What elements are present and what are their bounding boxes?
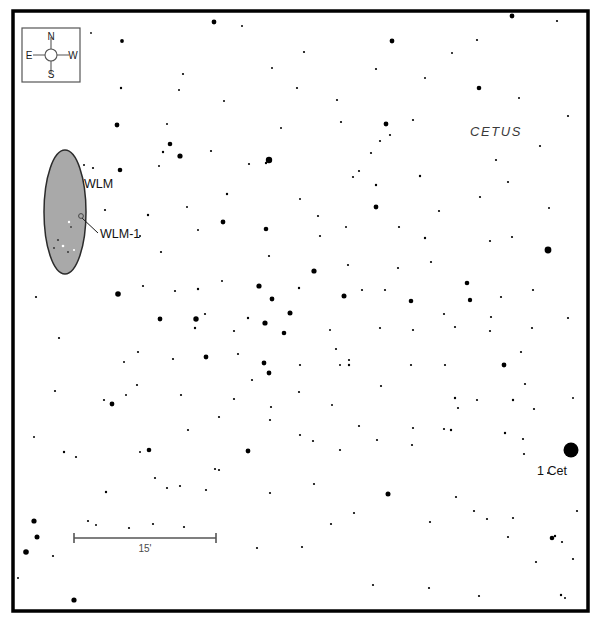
star [123, 361, 125, 363]
star [58, 337, 60, 339]
star [221, 280, 223, 282]
star [336, 99, 338, 101]
star [564, 597, 566, 599]
star [241, 25, 243, 27]
star [31, 518, 36, 523]
star [523, 453, 525, 455]
star [339, 449, 341, 451]
star [524, 383, 526, 385]
star [256, 547, 258, 549]
star [312, 440, 314, 442]
star [120, 87, 122, 89]
galaxy-inner-star [73, 249, 75, 251]
star [251, 379, 253, 381]
star [419, 175, 421, 177]
star [386, 492, 391, 497]
star [167, 610, 169, 612]
star [162, 151, 164, 153]
star [561, 541, 563, 543]
galaxy-inner-star [70, 226, 72, 228]
star [298, 287, 300, 289]
star [125, 394, 127, 396]
star [438, 210, 440, 212]
star [372, 584, 374, 586]
star [187, 429, 189, 431]
star [83, 164, 85, 166]
named-star-label: 1 Cet [537, 464, 567, 478]
star [105, 491, 107, 493]
star [576, 510, 578, 512]
star [221, 220, 226, 225]
star [398, 226, 400, 228]
star [457, 407, 459, 409]
star [412, 427, 414, 429]
star [110, 402, 115, 407]
star [455, 496, 457, 498]
star [430, 261, 432, 263]
sky-field: WLM WLM-1 CETUS 1 Cet 15' N S E W [0, 0, 601, 627]
star [539, 145, 541, 147]
star [54, 390, 56, 392]
star [424, 237, 426, 239]
star [160, 251, 162, 253]
star [90, 32, 92, 34]
star [479, 196, 481, 198]
galaxy-inner-star [68, 221, 70, 223]
star [212, 20, 217, 25]
star [267, 371, 272, 376]
star [465, 281, 470, 286]
star [269, 419, 271, 421]
star [298, 391, 300, 393]
star [296, 87, 298, 89]
star [345, 226, 347, 228]
star [237, 353, 239, 355]
star [340, 121, 342, 123]
compass-north-label: N [47, 31, 54, 42]
star [205, 489, 207, 491]
star [71, 597, 76, 602]
star [379, 140, 381, 142]
star [269, 492, 271, 494]
star [120, 39, 124, 43]
star [468, 298, 472, 302]
star [139, 451, 141, 453]
star [507, 181, 509, 183]
star-chart: WLM WLM-1 CETUS 1 Cet 15' N S E W [0, 0, 601, 627]
star [158, 317, 163, 322]
star [303, 51, 305, 53]
star [268, 255, 270, 257]
star [311, 268, 316, 273]
star [142, 285, 144, 287]
star [247, 317, 249, 319]
star [444, 364, 446, 366]
star [262, 320, 267, 325]
star [319, 235, 321, 237]
star [572, 397, 574, 399]
star [443, 313, 445, 315]
star [451, 52, 453, 54]
star [358, 170, 360, 172]
compass-rose: N S E W [22, 28, 80, 82]
star [409, 299, 414, 304]
star [204, 313, 206, 315]
star [348, 364, 350, 366]
star [33, 436, 35, 438]
star [531, 327, 533, 329]
star [560, 594, 562, 596]
star [299, 434, 301, 436]
star [512, 399, 514, 401]
star [374, 205, 379, 210]
star [166, 123, 168, 125]
star [218, 469, 220, 471]
star [490, 316, 492, 318]
star [567, 317, 569, 319]
star [329, 329, 331, 331]
star [172, 358, 174, 360]
star [450, 429, 452, 431]
star [572, 558, 574, 560]
star [147, 448, 152, 453]
star [246, 449, 251, 454]
star [331, 404, 333, 406]
star [535, 561, 537, 563]
galaxy-inner-star [53, 247, 55, 249]
